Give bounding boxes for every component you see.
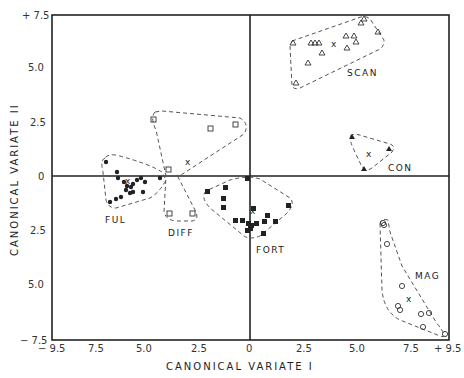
svg-text:− 9.5: − 9.5 (38, 343, 65, 354)
x-axis-label: CANONICAL VARIATE I (166, 361, 314, 372)
hull-ful (102, 155, 166, 208)
centroid-ful: x (125, 176, 131, 186)
centroid-scan: x (331, 39, 337, 49)
centroid-diff: x (185, 157, 191, 167)
svg-text:2.5: 2.5 (191, 343, 207, 354)
group-label-mag: MAG (415, 271, 440, 281)
canonical-variate-scatter: + 7.5 5.0 2.5 0 2.5 5.0 − 7.5 − 9.5 7.5 … (0, 0, 464, 378)
svg-text:7.5: 7.5 (403, 343, 419, 354)
hull-diff (153, 111, 247, 221)
group-label-ful: FUL (105, 215, 126, 225)
centroid-fort: x (250, 206, 256, 216)
series-ful-points (104, 160, 162, 204)
x-axis-ticks: − 9.5 7.5 5.0 2.5 0 2.5 5.0 7.5 + 9.5 (38, 343, 461, 354)
svg-text:+ 7.5: + 7.5 (22, 10, 49, 21)
y-axis-label: CANONICAL VARIATE II (9, 103, 20, 256)
svg-text:5.0: 5.0 (28, 279, 44, 290)
centroid-mag: x (406, 294, 412, 304)
group-label-scan: SCAN (347, 68, 378, 78)
svg-text:2.5: 2.5 (296, 343, 312, 354)
centroid-con: x (366, 149, 372, 159)
y-axis-ticks: + 7.5 5.0 2.5 0 2.5 5.0 − 7.5 (20, 10, 49, 346)
svg-text:5.0: 5.0 (28, 62, 44, 73)
group-label-diff: DIFF (168, 228, 194, 238)
svg-text:5.0: 5.0 (136, 343, 152, 354)
svg-text:5.0: 5.0 (349, 343, 365, 354)
group-label-con: CON (388, 163, 413, 173)
svg-text:2.5: 2.5 (30, 225, 46, 236)
svg-text:0: 0 (246, 343, 252, 354)
group-label-fort: FORT (256, 245, 285, 255)
svg-text:7.5: 7.5 (88, 343, 104, 354)
svg-text:2.5: 2.5 (30, 117, 46, 128)
svg-text:0: 0 (38, 171, 44, 182)
svg-text:+ 9.5: + 9.5 (434, 343, 461, 354)
